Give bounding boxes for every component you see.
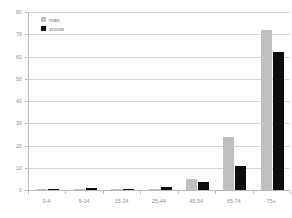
y-tick-mark bbox=[25, 12, 28, 13]
x-tick-label: 75+ bbox=[251, 198, 291, 204]
x-tick-mark bbox=[290, 191, 291, 194]
y-tick-mark bbox=[25, 34, 28, 35]
x-tick-mark bbox=[178, 191, 179, 194]
bar-group bbox=[223, 12, 246, 190]
y-tick-label: 20 bbox=[6, 143, 22, 149]
bar-vrouw-65-74 bbox=[235, 166, 246, 190]
bar-man-15-24 bbox=[111, 189, 122, 190]
bar-vrouw-45-54 bbox=[198, 182, 209, 190]
bar-vrouw-0-4 bbox=[48, 189, 59, 190]
x-tick-mark bbox=[140, 191, 141, 194]
x-tick-mark bbox=[28, 191, 29, 194]
x-tick-mark bbox=[253, 191, 254, 194]
y-tick-label: 80 bbox=[6, 9, 22, 15]
legend-swatch-men-icon bbox=[41, 17, 46, 22]
x-tick-mark bbox=[215, 191, 216, 194]
bar-group bbox=[261, 12, 284, 190]
bar-man-65-74 bbox=[223, 137, 234, 190]
y-tick-mark bbox=[25, 123, 28, 124]
bar-vrouw-25-44 bbox=[161, 187, 172, 190]
x-tick-label: 25-44 bbox=[139, 198, 179, 204]
y-tick-mark bbox=[25, 101, 28, 102]
y-tick-label: 40 bbox=[6, 98, 22, 104]
bar-man-75+ bbox=[261, 30, 272, 190]
legend-item-men[interactable]: man bbox=[41, 15, 64, 24]
bar-group bbox=[149, 12, 172, 190]
legend-label-women: vrouw bbox=[49, 26, 64, 32]
y-tick-label: 30 bbox=[6, 120, 22, 126]
y-tick-mark bbox=[25, 57, 28, 58]
x-tick-label: 15-24 bbox=[102, 198, 142, 204]
y-tick-mark bbox=[25, 146, 28, 147]
x-axis-line bbox=[28, 190, 290, 191]
y-tick-label: 60 bbox=[6, 54, 22, 60]
y-tick-label: 50 bbox=[6, 76, 22, 82]
y-tick-mark bbox=[25, 79, 28, 80]
y-tick-label: 0 bbox=[6, 187, 22, 193]
bar-vrouw-5-14 bbox=[86, 188, 97, 190]
legend-swatch-women-icon bbox=[41, 26, 46, 31]
bar-chart: 01020304050607080 0-45-1415-2425-4445-54… bbox=[0, 0, 292, 218]
bar-vrouw-75+ bbox=[273, 52, 284, 190]
bar-man-45-54 bbox=[186, 179, 197, 190]
bar-man-25-44 bbox=[149, 189, 160, 190]
bar-vrouw-15-24 bbox=[123, 189, 134, 190]
x-tick-mark bbox=[65, 191, 66, 194]
bar-man-0-4 bbox=[36, 189, 47, 190]
y-tick-mark bbox=[25, 168, 28, 169]
x-tick-label: 0-4 bbox=[27, 198, 67, 204]
x-tick-label: 5-14 bbox=[64, 198, 104, 204]
chart-legend: man vrouw bbox=[41, 15, 64, 33]
bars-layer bbox=[29, 12, 290, 190]
bar-group bbox=[74, 12, 97, 190]
x-tick-label: 65-74 bbox=[214, 198, 254, 204]
x-tick-mark bbox=[103, 191, 104, 194]
legend-label-men: man bbox=[49, 17, 60, 23]
bar-group bbox=[111, 12, 134, 190]
bar-group bbox=[36, 12, 59, 190]
legend-item-women[interactable]: vrouw bbox=[41, 24, 64, 33]
bar-group bbox=[186, 12, 209, 190]
x-tick-label: 45-54 bbox=[176, 198, 216, 204]
bar-man-5-14 bbox=[74, 189, 85, 190]
y-tick-label: 70 bbox=[6, 31, 22, 37]
y-tick-label: 10 bbox=[6, 165, 22, 171]
